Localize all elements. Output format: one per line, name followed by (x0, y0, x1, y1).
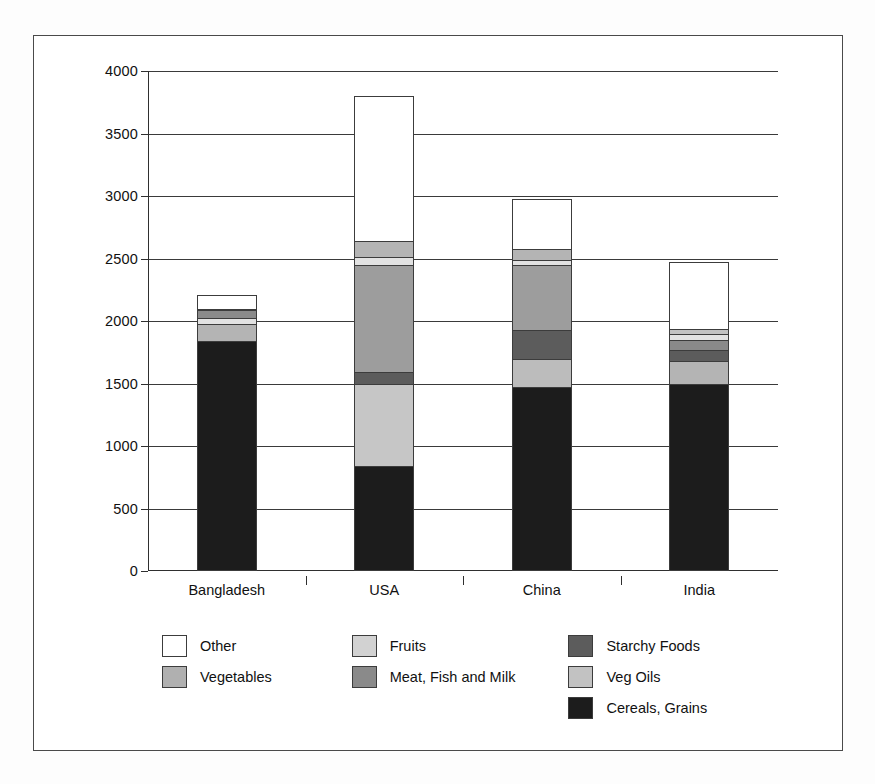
bar-segment[interactable] (197, 318, 257, 324)
stacked-bar[interactable] (354, 71, 414, 571)
bar-column (669, 71, 729, 571)
y-axis-tick (141, 71, 148, 72)
legend-item (352, 692, 569, 723)
bar-segment[interactable] (354, 466, 414, 571)
legend-item[interactable]: Starchy Foods (568, 630, 762, 661)
legend-label: Fruits (390, 638, 426, 654)
x-axis-tick-label: Bangladesh (188, 582, 265, 598)
y-axis-tick (141, 196, 148, 197)
legend-label: Vegetables (200, 669, 272, 685)
bar-column (354, 71, 414, 571)
legend-label: Cereals, Grains (606, 700, 707, 716)
bar-segment[interactable] (512, 359, 572, 388)
y-axis-tick (141, 509, 148, 510)
bar-segment[interactable] (197, 295, 257, 309)
legend-item[interactable]: Other (162, 630, 352, 661)
x-axis-labels: BangladeshUSAChinaIndia (148, 576, 778, 606)
x-axis-tick-label: India (684, 582, 715, 598)
bar-segment[interactable] (669, 350, 729, 361)
bar-segment[interactable] (354, 265, 414, 373)
chart-legend: OtherFruitsStarchy FoodsVegetablesMeat, … (162, 630, 762, 723)
y-axis-tick-label: 3000 (105, 188, 138, 204)
y-axis-tick-label: 2000 (105, 313, 138, 329)
bar-segment[interactable] (354, 96, 414, 241)
stacked-bar-chart: 05001000150020002500300035004000 Banglad… (34, 36, 842, 750)
y-axis-tick (141, 384, 148, 385)
bar-segment[interactable] (354, 384, 414, 467)
legend-item[interactable]: Veg Oils (568, 661, 762, 692)
legend-swatch-icon (568, 697, 593, 719)
bar-segment[interactable] (197, 341, 257, 571)
legend-item[interactable]: Fruits (352, 630, 569, 661)
legend-label: Veg Oils (606, 669, 660, 685)
bar-segment[interactable] (512, 249, 572, 260)
bar-column (512, 71, 572, 571)
bar-segment[interactable] (512, 260, 572, 265)
y-axis-tick (141, 446, 148, 447)
bar-segment[interactable] (354, 257, 414, 265)
bar-segment[interactable] (669, 384, 729, 572)
bar-segment[interactable] (512, 330, 572, 359)
y-axis-tick-label: 2500 (105, 251, 138, 267)
y-axis-tick-label: 0 (130, 563, 138, 579)
legend-swatch-icon (352, 666, 377, 688)
legend-row: OtherFruitsStarchy Foods (162, 630, 762, 661)
y-axis-tick (141, 321, 148, 322)
bar-segment[interactable] (669, 361, 729, 384)
legend-label: Other (200, 638, 236, 654)
bar-segment[interactable] (197, 324, 257, 342)
legend-swatch-icon (568, 635, 593, 657)
y-axis-tick-label: 4000 (105, 63, 138, 79)
x-axis-tick (621, 576, 622, 585)
x-axis-tick (306, 576, 307, 585)
figure-border: 05001000150020002500300035004000 Banglad… (33, 35, 843, 751)
y-axis-tick-label: 500 (113, 501, 138, 517)
bar-segment[interactable] (197, 310, 257, 318)
bar-segment[interactable] (669, 262, 729, 328)
legend-item[interactable]: Vegetables (162, 661, 352, 692)
y-axis-tick-label: 1000 (105, 438, 138, 454)
bar-segment[interactable] (512, 387, 572, 571)
x-axis-tick-label: China (523, 582, 561, 598)
y-axis-tick (141, 259, 148, 260)
legend-item (162, 692, 352, 723)
legend-swatch-icon (568, 666, 593, 688)
legend-label: Starchy Foods (606, 638, 700, 654)
stacked-bar[interactable] (197, 71, 257, 571)
bars-container (148, 71, 778, 571)
bar-column (197, 71, 257, 571)
legend-label: Meat, Fish and Milk (390, 669, 516, 685)
bar-segment[interactable] (512, 265, 572, 330)
stacked-bar[interactable] (669, 71, 729, 571)
legend-swatch-icon (352, 635, 377, 657)
y-axis-tick-label: 1500 (105, 376, 138, 392)
chart-page: 05001000150020002500300035004000 Banglad… (0, 0, 875, 784)
y-axis-labels: 05001000150020002500300035004000 (34, 71, 138, 571)
legend-row: VegetablesMeat, Fish and MilkVeg Oils (162, 661, 762, 692)
y-axis-tick (141, 571, 148, 572)
bar-segment[interactable] (354, 372, 414, 383)
y-axis-tick-label: 3500 (105, 126, 138, 142)
legend-item[interactable]: Cereals, Grains (568, 692, 762, 723)
legend-swatch-icon (162, 635, 187, 657)
bar-segment[interactable] (669, 329, 729, 334)
bar-segment[interactable] (669, 334, 729, 340)
y-axis-tick (141, 134, 148, 135)
bar-segment[interactable] (669, 340, 729, 350)
legend-swatch-icon (162, 666, 187, 688)
legend-row: Cereals, Grains (162, 692, 762, 723)
x-axis-tick-label: USA (369, 582, 399, 598)
bar-segment[interactable] (512, 199, 572, 249)
x-axis-tick (463, 576, 464, 585)
bar-segment[interactable] (354, 241, 414, 257)
legend-item[interactable]: Meat, Fish and Milk (352, 661, 569, 692)
plot-area (148, 71, 778, 571)
stacked-bar[interactable] (512, 71, 572, 571)
